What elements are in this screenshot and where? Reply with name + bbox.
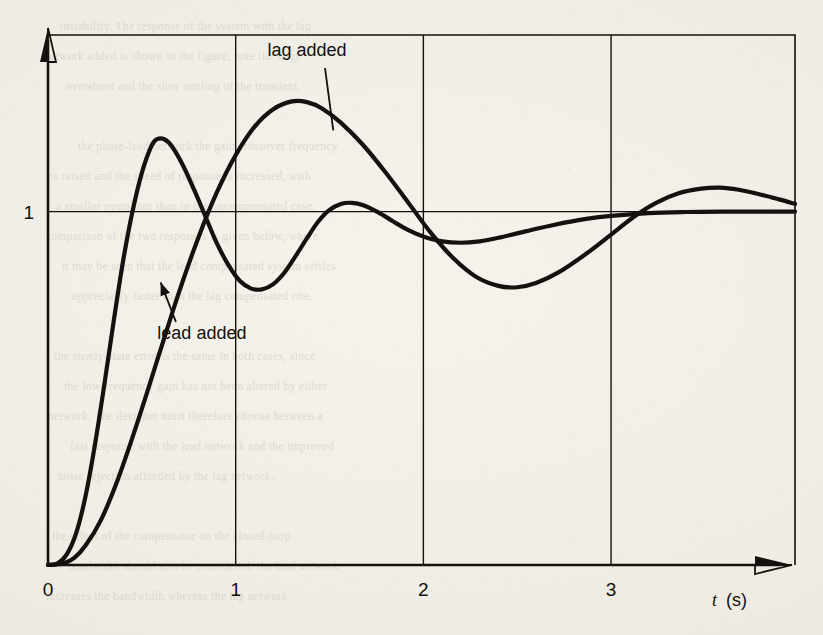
scanned-page: instability. The response of the system … bbox=[0, 0, 823, 635]
vertical-gridlines bbox=[236, 35, 611, 565]
x-axis-symbol-label: t bbox=[712, 590, 718, 610]
annotation-label-lag-added: lag added bbox=[267, 40, 346, 60]
x-axis-arrowhead-icon bbox=[755, 556, 792, 574]
leader-line-lag-added bbox=[325, 68, 333, 130]
annotation-leader-lines bbox=[161, 68, 334, 322]
y-axis-arrowhead-icon bbox=[40, 28, 56, 62]
x-axis-unit-label: (s) bbox=[726, 590, 747, 610]
leader-arrowhead-icon bbox=[161, 282, 170, 296]
y-tick-label-1: 1 bbox=[23, 202, 34, 223]
plot-frame bbox=[48, 35, 795, 565]
step-response-figure: 01231lag addedlead added t (s) bbox=[0, 0, 823, 635]
x-tick-label-3: 3 bbox=[606, 579, 617, 600]
x-tick-label-0: 0 bbox=[43, 579, 54, 600]
x-tick-label-2: 2 bbox=[418, 579, 429, 600]
annotation-label-lead-added: lead added bbox=[157, 323, 246, 343]
x-tick-label-1: 1 bbox=[230, 579, 241, 600]
